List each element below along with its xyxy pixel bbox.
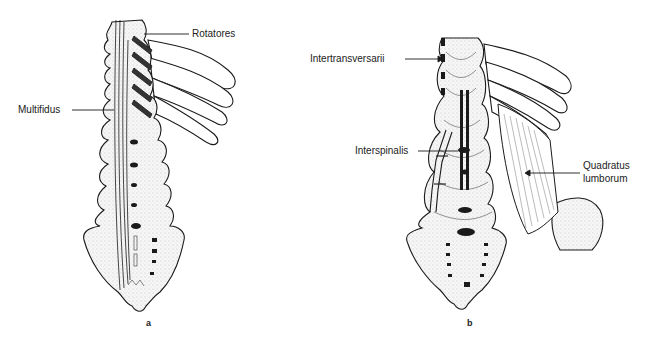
ilium-b [552,198,603,250]
label-rotatores: Rotatores [192,28,235,40]
panel-letter-b: b [467,318,473,328]
label-intertransversarii: Intertransversarii [310,53,384,65]
label-quadratus-line1: Quadratus [583,160,630,172]
anatomy-figure: Rotatores Multifidus a Intertransversari… [0,0,660,353]
panel-letter-a: a [146,318,151,328]
label-interspinalis: Interspinalis [355,145,408,157]
panel-b-drawing [405,38,603,309]
label-multifidus: Multifidus [18,104,60,116]
label-quadratus-line2: lumborum [583,173,627,185]
panel-a-drawing [72,20,235,311]
